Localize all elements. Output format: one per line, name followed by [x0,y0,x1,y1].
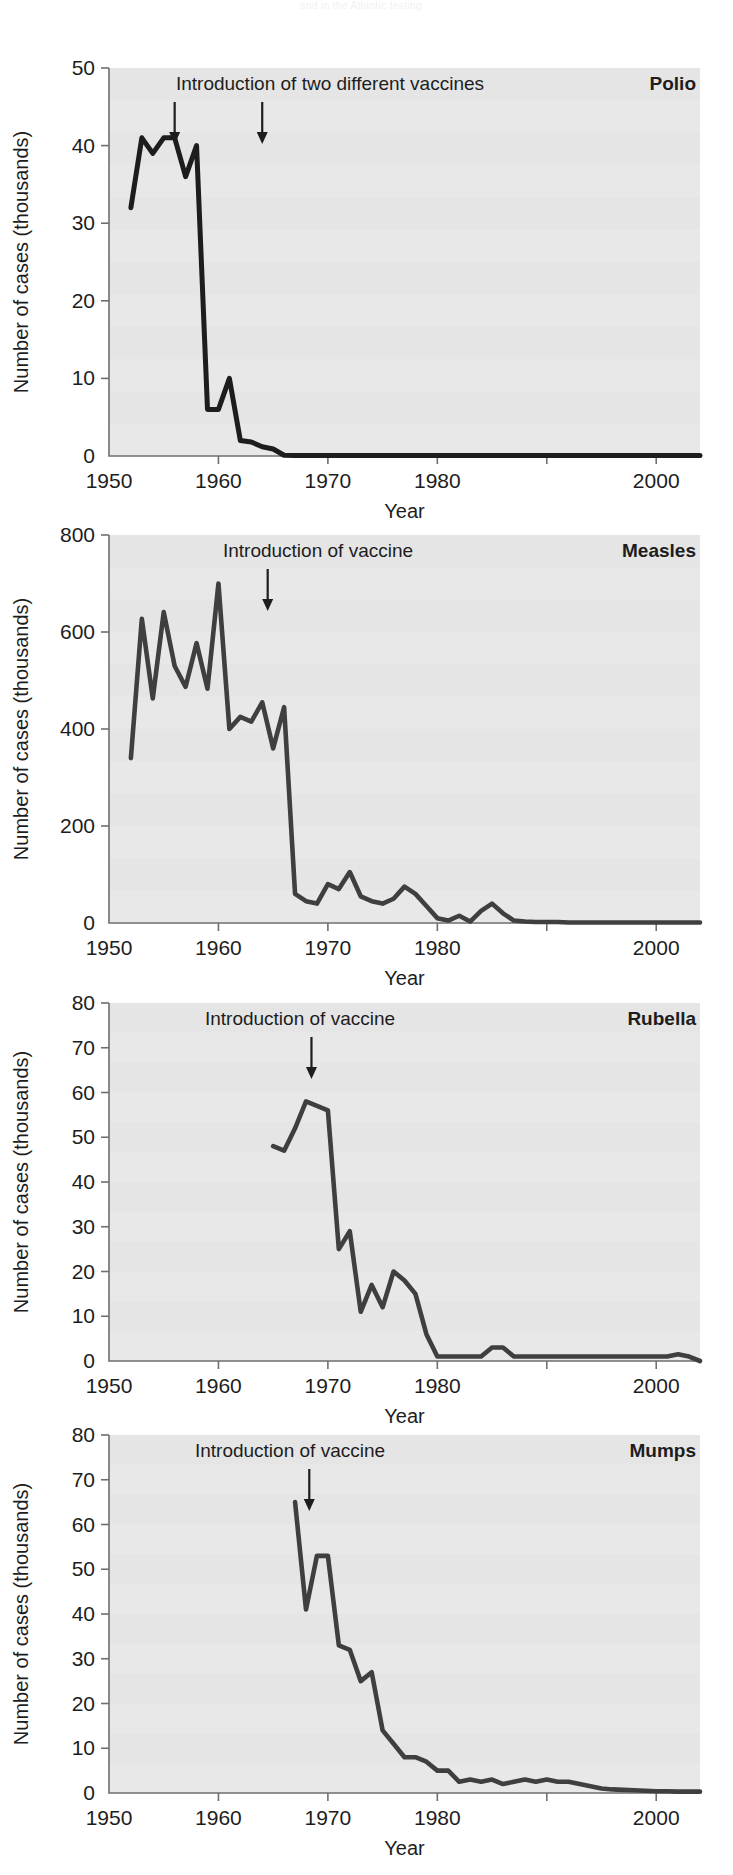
paper-texture-band [109,600,700,632]
x-axis-tick-label: 2000 [633,936,680,959]
paper-texture-band [109,262,700,294]
x-axis-tick-label: 1970 [305,936,352,959]
y-axis-tick-label: 60 [72,1081,95,1104]
paper-texture-band [109,1674,700,1704]
x-axis-tick-label: 1950 [86,1374,133,1397]
chart-svg-rubella: 0102030405060708019501960197019802000Yea… [0,980,733,1435]
x-axis-tick-label: 1980 [414,1374,461,1397]
paper-texture-band [109,794,700,826]
paper-texture-band [109,1003,700,1033]
y-axis-tick-label: 20 [72,289,95,312]
y-axis-tick-label: 70 [72,1468,95,1491]
paper-texture-band [109,391,700,423]
x-axis-tick-label: 1950 [86,1806,133,1829]
y-axis-tick-label: 30 [72,1215,95,1238]
paper-texture-band [109,1063,700,1093]
x-axis-tick-label: 1980 [414,936,461,959]
x-axis-tick-label: 1970 [305,1806,352,1829]
x-axis-tick-label: 1950 [86,469,133,492]
x-axis-tick-label: 2000 [633,469,680,492]
series-title: Measles [622,540,696,561]
x-axis-tick-label: 1950 [86,936,133,959]
y-axis-tick-label: 200 [60,814,95,837]
paper-texture-band [109,1554,700,1584]
y-axis-tick-label: 40 [72,1602,95,1625]
chart-svg-measles: 020040060080019501960197019802000YearNum… [0,512,733,997]
paper-texture-band [109,1122,700,1152]
y-axis-tick-label: 800 [60,523,95,546]
y-axis-tick-label: 50 [72,1557,95,1580]
series-title: Mumps [630,1440,697,1461]
chart-svg-polio: 0102030405019501960197019802000YearNumbe… [0,45,733,530]
y-axis-tick-label: 50 [72,56,95,79]
x-axis-tick-label: 1970 [305,1374,352,1397]
y-axis-tick-label: 10 [72,1304,95,1327]
paper-texture-band [109,729,700,761]
chart-panel-mumps: 0102030405060708019501960197019802000Yea… [0,1412,733,1867]
y-axis-tick-label: 20 [72,1260,95,1283]
y-axis-tick-label: 50 [72,1125,95,1148]
y-axis-tick-label: 10 [72,366,95,389]
annotation-label: Introduction of vaccine [195,1440,385,1461]
x-axis-tick-label: 1980 [414,469,461,492]
y-axis-tick-label: 70 [72,1036,95,1059]
x-axis-tick-label: 1960 [195,1374,242,1397]
y-axis-tick-label: 400 [60,717,95,740]
series-title: Polio [650,73,696,94]
y-axis-tick-label: 80 [72,1423,95,1446]
y-axis-tick-label: 0 [83,911,95,934]
y-axis-tick-label: 80 [72,991,95,1014]
y-axis-tick-label: 60 [72,1513,95,1536]
paper-texture-band [109,664,700,696]
y-axis-title: Number of cases (thousands) [10,1051,32,1313]
x-axis-tick-label: 2000 [633,1374,680,1397]
paper-texture-band [109,1182,700,1212]
y-axis-tick-label: 40 [72,134,95,157]
x-axis-tick-label: 1960 [195,469,242,492]
y-axis-tick-label: 0 [83,1349,95,1372]
y-axis-tick-label: 40 [72,1170,95,1193]
chart-panel-rubella: 0102030405060708019501960197019802000Yea… [0,980,733,1435]
x-axis-tick-label: 2000 [633,1806,680,1829]
y-axis-tick-label: 600 [60,620,95,643]
y-axis-title: Number of cases (thousands) [10,598,32,860]
figure-page: and in the Atlantic testing 010203040501… [0,0,733,1875]
annotation-label: Introduction of vaccine [205,1008,395,1029]
x-axis-tick-label: 1960 [195,936,242,959]
chart-panel-polio: 0102030405019501960197019802000YearNumbe… [0,45,733,530]
chart-panel-measles: 020040060080019501960197019802000YearNum… [0,512,733,997]
x-axis-tick-label: 1970 [305,469,352,492]
annotation-label: Introduction of vaccine [223,540,413,561]
x-axis-tick-label: 1980 [414,1806,461,1829]
y-axis-tick-label: 10 [72,1736,95,1759]
paper-texture-band [109,327,700,359]
y-axis-title: Number of cases (thousands) [10,1483,32,1745]
y-axis-tick-label: 20 [72,1692,95,1715]
x-axis-tick-label: 1960 [195,1806,242,1829]
y-axis-tick-label: 0 [83,444,95,467]
faint-header-artifact: and in the Atlantic testing [300,0,720,14]
paper-texture-band [109,1242,700,1272]
chart-svg-mumps: 0102030405060708019501960197019802000Yea… [0,1412,733,1867]
paper-texture-band [109,1614,700,1644]
series-title: Rubella [627,1008,696,1029]
paper-texture-band [109,1301,700,1331]
paper-texture-band [109,1495,700,1525]
y-axis-tick-label: 30 [72,211,95,234]
x-axis-title: Year [384,1837,425,1859]
y-axis-tick-label: 30 [72,1647,95,1670]
y-axis-tick-label: 0 [83,1781,95,1804]
y-axis-title: Number of cases (thousands) [10,131,32,393]
annotation-label: Introduction of two different vaccines [176,73,484,94]
